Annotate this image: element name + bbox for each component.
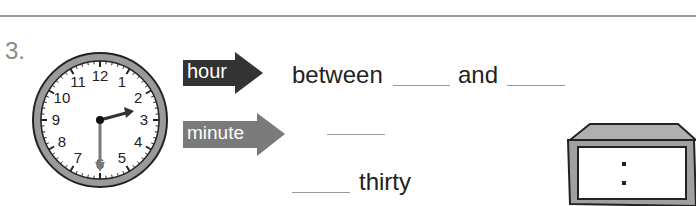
minute-arrow-label: minute [187, 123, 244, 142]
top-divider [0, 15, 696, 17]
svg-text:9: 9 [52, 111, 60, 128]
minute-arrow: minute [183, 113, 287, 156]
and-text: and [458, 63, 498, 87]
svg-text:7: 7 [74, 149, 82, 166]
svg-text:4: 4 [134, 133, 142, 150]
svg-text:1: 1 [118, 73, 126, 90]
svg-text:8: 8 [58, 133, 66, 150]
question-number: 3. [5, 37, 25, 65]
hour-blank-1[interactable] [393, 85, 450, 86]
hour-arrow: hour [183, 52, 265, 94]
svg-text:3: 3 [140, 111, 148, 128]
svg-text:12: 12 [92, 67, 109, 84]
analog-clock: 121234567891011 [30, 50, 170, 190]
minute-blank[interactable] [327, 134, 385, 135]
clock-face-icon: 121234567891011 [30, 50, 170, 190]
svg-text:2: 2 [134, 89, 142, 106]
digital-clock [558, 110, 696, 206]
svg-text:10: 10 [54, 89, 71, 106]
thirty-text: thirty [359, 170, 411, 194]
svg-text:5: 5 [118, 149, 126, 166]
svg-text:11: 11 [70, 73, 86, 90]
answer-blank[interactable] [292, 192, 350, 193]
hour-blank-2[interactable] [507, 85, 565, 86]
hour-arrow-label: hour [187, 61, 227, 81]
between-text: between [292, 63, 383, 87]
